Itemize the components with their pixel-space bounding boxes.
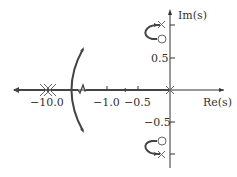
upper-loop bbox=[145, 25, 160, 39]
root-locus-plot: Im(s) Re(s) −10.0 −1.0 −0.5 0.5 −0.5 bbox=[0, 0, 237, 177]
im-axis-label: Im(s) bbox=[178, 9, 207, 22]
zero-marker-icon bbox=[158, 35, 166, 43]
y-tick-label: 0.5 bbox=[151, 52, 169, 65]
zero-marker-icon bbox=[158, 137, 166, 145]
axis-break-icon bbox=[78, 85, 87, 93]
y-tick-label: −0.5 bbox=[144, 116, 171, 129]
re-axis-label: Re(s) bbox=[203, 96, 232, 109]
x-tick-label: −1.0 bbox=[93, 96, 120, 109]
lower-loop bbox=[145, 141, 160, 154]
x-tick-label: −10.0 bbox=[30, 96, 64, 109]
x-tick-label: −0.5 bbox=[124, 96, 151, 109]
